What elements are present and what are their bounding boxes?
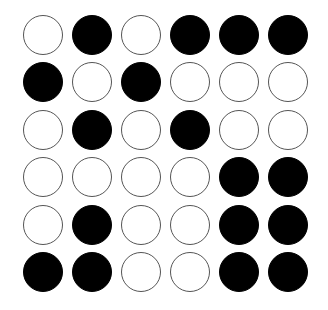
circle-cell-r6-c2[interactable] [72, 252, 112, 292]
circle-cell-r5-c2[interactable] [72, 205, 112, 245]
circle-cell-r4-c3[interactable] [121, 157, 161, 197]
circle-cell-r3-c1[interactable] [23, 110, 63, 150]
game-board [0, 0, 328, 310]
circle-cell-r5-c5[interactable] [219, 205, 259, 245]
circle-cell-r4-c6[interactable] [268, 157, 308, 197]
circle-cell-r2-c3[interactable] [121, 62, 161, 102]
circle-cell-r2-c4[interactable] [170, 62, 210, 102]
circle-cell-r2-c6[interactable] [268, 62, 308, 102]
circle-cell-r4-c1[interactable] [23, 157, 63, 197]
circle-cell-r4-c5[interactable] [219, 157, 259, 197]
circle-cell-r5-c4[interactable] [170, 205, 210, 245]
circle-cell-r6-c5[interactable] [219, 252, 259, 292]
circle-cell-r5-c3[interactable] [121, 205, 161, 245]
circle-cell-r5-c6[interactable] [268, 205, 308, 245]
circle-cell-r2-c1[interactable] [23, 62, 63, 102]
circle-cell-r1-c2[interactable] [72, 15, 112, 55]
circle-cell-r5-c1[interactable] [23, 205, 63, 245]
circle-cell-r6-c6[interactable] [268, 252, 308, 292]
circle-cell-r6-c1[interactable] [23, 252, 63, 292]
circle-cell-r6-c3[interactable] [121, 252, 161, 292]
circle-cell-r1-c6[interactable] [268, 15, 308, 55]
circle-cell-r1-c4[interactable] [170, 15, 210, 55]
circle-cell-r6-c4[interactable] [170, 252, 210, 292]
circle-cell-r2-c2[interactable] [72, 62, 112, 102]
circle-cell-r2-c5[interactable] [219, 62, 259, 102]
circle-cell-r3-c2[interactable] [72, 110, 112, 150]
circle-cell-r3-c3[interactable] [121, 110, 161, 150]
circle-cell-r3-c4[interactable] [170, 110, 210, 150]
circle-cell-r3-c6[interactable] [268, 110, 308, 150]
circle-cell-r1-c5[interactable] [219, 15, 259, 55]
circle-cell-r4-c4[interactable] [170, 157, 210, 197]
circle-cell-r1-c3[interactable] [121, 15, 161, 55]
circle-cell-r3-c5[interactable] [219, 110, 259, 150]
circle-cell-r4-c2[interactable] [72, 157, 112, 197]
circle-cell-r1-c1[interactable] [23, 15, 63, 55]
